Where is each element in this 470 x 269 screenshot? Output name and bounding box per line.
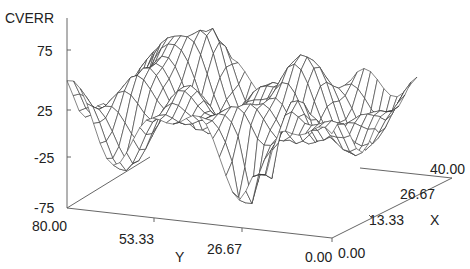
z-tick-75: 75	[37, 44, 53, 58]
x-tick-26: 26.67	[400, 187, 435, 201]
x-tick-13: 13.33	[369, 213, 404, 227]
y-tick-53: 53.33	[119, 232, 154, 246]
x-tick-0: 0.00	[338, 246, 365, 260]
z-tick-neg75: -75	[34, 201, 54, 215]
z-tick-neg25: -25	[34, 151, 54, 165]
z-axis-title: CVERR	[5, 11, 54, 25]
x-tick-40: 40.00	[430, 162, 465, 176]
y-tick-80: 80.00	[32, 219, 67, 233]
wireframe-surface	[67, 29, 417, 204]
x-axis-title: X	[430, 213, 439, 227]
y-tick-0: 0.00	[305, 250, 332, 264]
back-floor-edge	[67, 157, 150, 208]
y-axis-title: Y	[175, 250, 184, 264]
surface-plot	[0, 0, 470, 269]
y-tick-26: 26.67	[207, 242, 242, 256]
z-tick-25: 25	[37, 104, 53, 118]
y-axis	[67, 208, 332, 238]
